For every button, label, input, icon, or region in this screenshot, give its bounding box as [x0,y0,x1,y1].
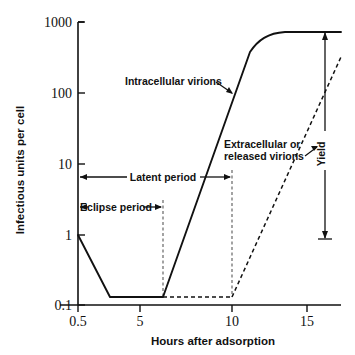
eclipse-period-annotation: Eclipse period [80,201,162,213]
extracellular-virions-label-line1: Extracellular or [224,138,300,150]
latent-period-arrowhead-left [80,174,87,180]
extracellular-virions-annotation: Extracellular or released virions [224,138,318,162]
growth-curve-chart: 1000 100 10 1 0.1 0.5 5 10 15 Hours afte… [0,0,355,355]
intracellular-virions-curve [78,32,341,297]
yield-arrowhead-bottom [322,231,328,239]
y-tick-label-0.1: 0.1 [55,298,73,313]
y-tick-label-100: 100 [51,86,72,101]
y-tick-label-1000: 1000 [44,15,72,30]
y-tick-label-1: 1 [65,228,72,243]
y-ticks [78,22,85,305]
x-tick-label-5: 5 [137,314,144,329]
drop-lines [163,170,232,297]
x-tick-labels: 0.5 5 10 15 [69,314,314,329]
yield-annotation: Yield [315,32,332,239]
intracellular-virions-leader-arrowhead [226,87,233,94]
intracellular-virions-label: Intracellular virions [125,75,222,87]
y-axis-title: Infectious units per cell [14,106,26,234]
y-tick-label-10: 10 [58,157,72,172]
eclipse-period-label: Eclipse period [80,201,152,213]
one-step-growth-curve-figure: 1000 100 10 1 0.1 0.5 5 10 15 Hours afte… [0,0,355,355]
eclipse-period-arrowhead-right [155,204,162,210]
intracellular-virions-annotation: Intracellular virions [125,75,233,94]
axes [60,22,341,305]
x-ticks [78,305,307,312]
latent-period-label: Latent period [130,171,197,183]
latent-period-arrowhead-right [224,174,231,180]
x-tick-label-10: 10 [225,314,239,329]
extracellular-virions-label-line2: released virions [224,150,304,162]
latent-period-annotation: Latent period [80,171,231,183]
yield-arrowhead-top [322,32,328,40]
x-tick-label-15: 15 [300,314,314,329]
y-tick-labels: 1000 100 10 1 0.1 [44,15,72,313]
yield-label: Yield [315,142,327,167]
x-tick-label-0.5: 0.5 [69,314,87,329]
x-axis-title: Hours after adsorption [151,335,275,347]
